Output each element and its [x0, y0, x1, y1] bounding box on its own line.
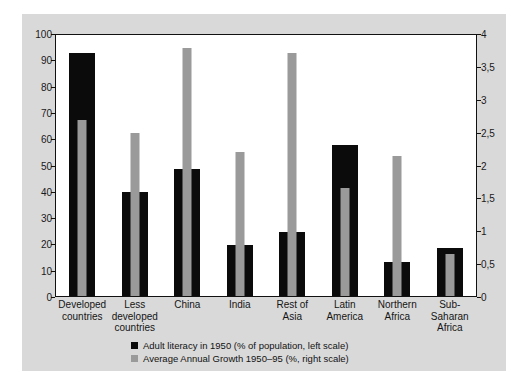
bar-group: [319, 35, 372, 296]
bar-group: [371, 35, 424, 296]
x-axis-label-line: America: [320, 311, 371, 323]
x-axis-label-line: Africa: [425, 322, 476, 334]
left-axis-tick-mark: [51, 297, 55, 298]
right-axis-tick-mark: [477, 166, 481, 167]
x-axis-label-line: Latin: [320, 299, 371, 311]
legend-swatch-icon: [131, 355, 138, 362]
left-axis-tick-mark: [51, 166, 55, 167]
bar-average-annual-growth: [393, 156, 402, 296]
left-axis-tick-mark: [51, 34, 55, 35]
x-axis-label-line: Less: [110, 299, 161, 311]
x-axis-label: China: [161, 299, 214, 334]
legend-item: Average Annual Growth 1950–95 (%, right …: [131, 353, 349, 364]
x-axis-label-line: China: [162, 299, 213, 311]
right-axis-tick-label: 4: [481, 29, 487, 40]
left-axis-tick-mark: [51, 192, 55, 193]
left-axis-tick-mark: [51, 244, 55, 245]
right-axis-tick-label: 0: [481, 292, 487, 303]
chart-legend: Adult literacy in 1950 (% of population,…: [131, 340, 349, 366]
left-axis-tick-mark: [51, 113, 55, 114]
bar-group: [56, 35, 109, 296]
x-axis-label: Developedcountries: [56, 299, 109, 334]
right-axis-tick-label: 2,5: [481, 127, 495, 138]
bar-group: [266, 35, 319, 296]
right-axis-tick-mark: [477, 34, 481, 35]
bar-average-annual-growth: [235, 152, 244, 296]
bar-average-annual-growth: [288, 53, 297, 296]
x-axis-labels: DevelopedcountriesLessdevelopedcountries…: [56, 299, 476, 334]
legend-label: Adult literacy in 1950 (% of population,…: [143, 340, 348, 351]
right-axis-tick-label: 3: [481, 94, 487, 105]
left-axis-tick-mark: [51, 60, 55, 61]
x-axis-label: LatinAmerica: [319, 299, 372, 334]
x-axis-label-line: Developed: [57, 299, 108, 311]
left-axis-tick-mark: [51, 218, 55, 219]
bar-group: [424, 35, 477, 296]
right-axis-tick-mark: [477, 264, 481, 265]
x-axis-label-line: Sub-Saharan: [425, 299, 476, 322]
bar-average-annual-growth: [130, 133, 139, 296]
left-axis-tick-label: 100: [35, 29, 52, 40]
right-axis-tick-mark: [477, 297, 481, 298]
bar-groups: [56, 35, 476, 296]
right-axis-tick-mark: [477, 231, 481, 232]
right-axis-tick-label: 3,5: [481, 61, 495, 72]
bar-average-annual-growth: [78, 120, 87, 296]
right-axis-tick-label: 2: [481, 160, 487, 171]
x-axis-label: India: [214, 299, 267, 334]
x-axis-label-line: countries: [57, 311, 108, 323]
legend-item: Adult literacy in 1950 (% of population,…: [131, 340, 349, 351]
right-axis-tick-label: 1: [481, 226, 487, 237]
x-axis-label-line: Africa: [372, 311, 423, 323]
chart-figure: 0102030405060708090100 00,511,522,533,54…: [0, 0, 531, 391]
x-axis-label-line: Asia: [267, 311, 318, 323]
bar-average-annual-growth: [183, 48, 192, 296]
right-axis-tick-mark: [477, 100, 481, 101]
right-axis-tick-mark: [477, 198, 481, 199]
x-axis-label: Rest ofAsia: [266, 299, 319, 334]
right-axis: 00,511,522,533,54: [481, 34, 509, 297]
right-axis-tick-mark: [477, 67, 481, 68]
legend-swatch-icon: [131, 342, 138, 349]
x-axis-label-line: developed: [110, 311, 161, 323]
bar-group: [109, 35, 162, 296]
legend-label: Average Annual Growth 1950–95 (%, right …: [143, 353, 349, 364]
right-axis-tick-label: 1,5: [481, 193, 495, 204]
bar-average-annual-growth: [445, 254, 454, 296]
left-axis-tick-mark: [51, 271, 55, 272]
left-axis-tick-mark: [51, 139, 55, 140]
x-axis-label-line: India: [215, 299, 266, 311]
left-axis: 0102030405060708090100: [22, 34, 52, 297]
x-axis-label: Lessdevelopedcountries: [109, 299, 162, 334]
bar-average-annual-growth: [340, 188, 349, 296]
x-axis-label-line: Rest of: [267, 299, 318, 311]
left-axis-tick-mark: [51, 87, 55, 88]
x-axis-label: NorthernAfrica: [371, 299, 424, 334]
right-axis-tick-label: 0,5: [481, 259, 495, 270]
bar-group: [161, 35, 214, 296]
x-axis-label: Sub-SaharanAfrica: [424, 299, 477, 334]
right-axis-tick-mark: [477, 133, 481, 134]
x-axis-label-line: countries: [110, 322, 161, 334]
bar-group: [214, 35, 267, 296]
x-axis-label-line: Northern: [372, 299, 423, 311]
